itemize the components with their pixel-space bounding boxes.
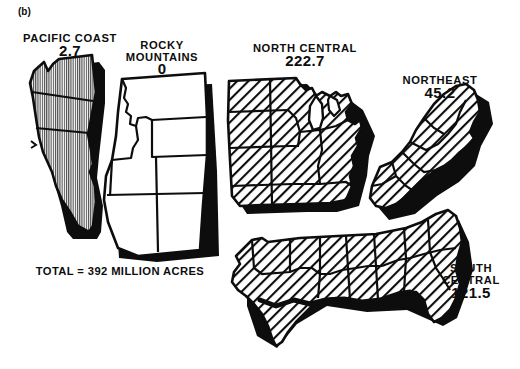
northeast-value: 45.2 [380,85,500,102]
region-pacific-coast[interactable] [30,55,105,239]
north-central-value: 222.7 [235,53,375,70]
figure-panel: (b) PACIFIC COAST 2.7 ROCKY MOUNTAINS 0 … [0,0,520,369]
south-central-value: 121.5 [428,285,514,302]
pacific-coast-notch [31,141,36,148]
region-north-central[interactable] [228,78,375,214]
north-central-body [228,78,362,206]
region-rocky-mountains[interactable] [104,73,219,262]
region-northeast[interactable] [370,84,493,220]
pacific-coast-value: 2.7 [10,43,130,60]
rocky-mountains-value: 0 [118,61,206,78]
rocky-mountains-label-line1: ROCKY [118,39,206,52]
total-acres-label: TOTAL = 392 MILLION ACRES [20,265,220,278]
panel-tag: (b) [18,6,31,17]
south-central-label-line1: SOUTH [428,262,514,275]
